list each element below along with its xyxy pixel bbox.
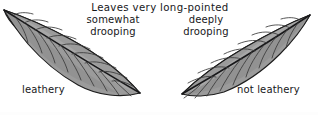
bottom-margin (0, 112, 318, 115)
left-texture-label: leathery (22, 84, 65, 96)
right-texture-label: not leathery (237, 84, 300, 96)
leaf-comparison-figure: Leaves very long-pointed somewhat droopi… (0, 0, 318, 115)
